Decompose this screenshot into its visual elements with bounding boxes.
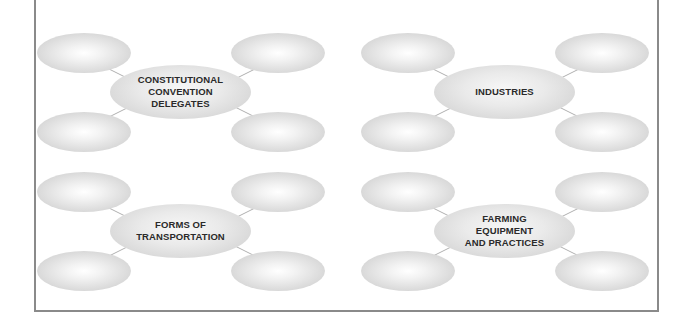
branch-oval-bottom-right[interactable] xyxy=(231,112,325,152)
concept-web-constitutional-convention-delegates: CONSTITUTIONAL CONVENTION DELEGATES xyxy=(37,33,327,155)
branch-oval-bottom-left[interactable] xyxy=(361,251,455,291)
center-oval: FORMS OF TRANSPORTATION xyxy=(110,204,251,258)
branch-oval-bottom-left[interactable] xyxy=(37,112,131,152)
branch-oval-bottom-right[interactable] xyxy=(231,251,325,291)
center-label: FARMING EQUIPMENT AND PRACTICES xyxy=(465,213,544,249)
center-label: CONSTITUTIONAL CONVENTION DELEGATES xyxy=(138,74,223,110)
center-label: INDUSTRIES xyxy=(475,86,534,98)
center-label: FORMS OF TRANSPORTATION xyxy=(136,219,225,243)
center-oval: FARMING EQUIPMENT AND PRACTICES xyxy=(434,204,575,258)
concept-web-farming-equipment-and-practices: FARMING EQUIPMENT AND PRACTICES xyxy=(361,172,651,294)
center-oval: INDUSTRIES xyxy=(434,65,575,119)
branch-oval-top-right[interactable] xyxy=(231,172,325,212)
branch-oval-bottom-left[interactable] xyxy=(37,251,131,291)
branch-oval-top-left[interactable] xyxy=(361,172,455,212)
branch-oval-top-left[interactable] xyxy=(37,172,131,212)
branch-oval-bottom-left[interactable] xyxy=(361,112,455,152)
branch-oval-top-right[interactable] xyxy=(231,33,325,73)
center-oval: CONSTITUTIONAL CONVENTION DELEGATES xyxy=(110,65,251,119)
branch-oval-top-left[interactable] xyxy=(361,33,455,73)
branch-oval-top-right[interactable] xyxy=(555,172,649,212)
branch-oval-bottom-right[interactable] xyxy=(555,251,649,291)
concept-web-forms-of-transportation: FORMS OF TRANSPORTATION xyxy=(37,172,327,294)
concept-web-industries: INDUSTRIES xyxy=(361,33,651,155)
branch-oval-bottom-right[interactable] xyxy=(555,112,649,152)
branch-oval-top-right[interactable] xyxy=(555,33,649,73)
branch-oval-top-left[interactable] xyxy=(37,33,131,73)
